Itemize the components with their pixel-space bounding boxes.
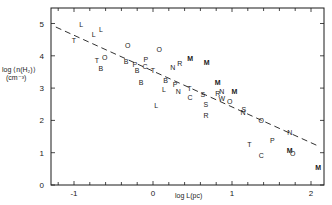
data-point: O bbox=[157, 46, 163, 53]
data-point: C bbox=[143, 63, 148, 70]
data-point: T bbox=[187, 85, 192, 92]
data-points: LLLTOTBOOBPBCPTBLNRMMBLPNTCSSRMRNWMOSNON… bbox=[72, 21, 321, 172]
data-point: B bbox=[135, 67, 140, 74]
data-point: B bbox=[139, 79, 144, 86]
data-point: T bbox=[247, 141, 252, 148]
data-point: S bbox=[200, 91, 205, 98]
data-point: M bbox=[215, 79, 221, 86]
y-tick-label: 2 bbox=[40, 116, 45, 125]
y-tick-label: 1 bbox=[40, 149, 45, 158]
data-point: O bbox=[125, 42, 131, 49]
data-point: L bbox=[92, 31, 96, 38]
y-tick-label: 5 bbox=[40, 20, 45, 29]
scatter-chart: -1012012345 LLLTOTBOOBPBCPTBLNRMMBLPNTCS… bbox=[0, 0, 332, 205]
x-tick-label: 2 bbox=[309, 189, 314, 198]
y-axis-label-line2: (cm⁻³) bbox=[2, 74, 36, 82]
data-point: O bbox=[227, 98, 233, 105]
data-point: N bbox=[287, 129, 292, 136]
data-point: L bbox=[99, 26, 103, 33]
data-point: N bbox=[241, 109, 246, 116]
x-axis-label: log L(pc) bbox=[175, 192, 202, 199]
data-point: R bbox=[177, 60, 182, 67]
data-point: T bbox=[151, 67, 156, 74]
data-point: C bbox=[259, 152, 264, 159]
data-point: O bbox=[290, 150, 296, 157]
data-point: N bbox=[176, 88, 181, 95]
data-point: L bbox=[162, 86, 166, 93]
data-point: B bbox=[163, 77, 168, 84]
data-point: M bbox=[315, 164, 321, 171]
data-point: S bbox=[204, 101, 209, 108]
y-axis-label-line1: log ⟨n(H₂)⟩ bbox=[2, 66, 36, 74]
y-tick-label: 0 bbox=[40, 181, 45, 190]
x-tick-label: 0 bbox=[151, 189, 156, 198]
y-tick-label: 3 bbox=[40, 84, 45, 93]
data-point: L bbox=[79, 21, 83, 28]
data-point: M bbox=[231, 88, 237, 95]
data-point: L bbox=[154, 102, 158, 109]
data-point: R bbox=[203, 112, 208, 119]
data-point: N bbox=[219, 88, 224, 95]
data-point: C bbox=[188, 94, 193, 101]
data-point: P bbox=[144, 56, 149, 63]
y-axis-label: log ⟨n(H₂)⟩ (cm⁻³) bbox=[2, 66, 36, 82]
data-point: M bbox=[204, 59, 210, 66]
data-point: O bbox=[102, 54, 108, 61]
data-point: B bbox=[99, 65, 104, 72]
axis-tick-labels: -1012012345 bbox=[40, 20, 314, 199]
y-tick-label: 4 bbox=[40, 52, 45, 61]
data-point: O bbox=[259, 117, 265, 124]
data-point: B bbox=[124, 58, 129, 65]
data-point: N bbox=[170, 64, 175, 71]
data-point: T bbox=[95, 57, 100, 64]
x-tick-label: -1 bbox=[70, 189, 78, 198]
data-point: P bbox=[270, 137, 275, 144]
data-point: M bbox=[187, 55, 193, 62]
data-point: W bbox=[218, 95, 225, 102]
data-point: T bbox=[72, 37, 77, 44]
x-tick-label: 1 bbox=[230, 189, 235, 198]
